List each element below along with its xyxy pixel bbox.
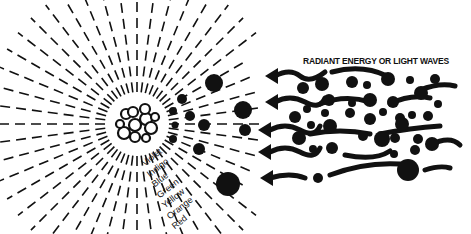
left-particles: [169, 74, 252, 196]
sun-source-icon: [116, 104, 159, 142]
diagram-title: RADIANT ENERGY OR LIGHT WAVES: [303, 56, 449, 66]
diagram-canvas: [0, 0, 471, 234]
